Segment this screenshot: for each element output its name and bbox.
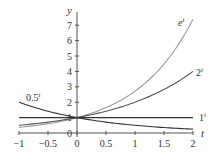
x-tick-label: 1.5	[158, 138, 171, 149]
curve-label: 1t	[199, 111, 207, 123]
curve-label: 0.5t	[26, 91, 42, 103]
x-tick-label: 0.5	[100, 138, 113, 149]
y-tick-label: 5	[67, 51, 72, 62]
y-tick-label: 6	[67, 35, 72, 46]
x-tick-label: 0	[75, 138, 80, 149]
y-tick-label: 0	[67, 128, 72, 139]
curve-label: et	[178, 16, 185, 28]
y-tick-label: 7	[67, 20, 72, 31]
curve-0-5-pow-t	[19, 102, 193, 129]
y-tick-label: 4	[67, 66, 72, 77]
x-tick-label: −1	[14, 138, 25, 149]
curve-label: 2t	[196, 66, 204, 78]
x-tick-label: −0.5	[39, 138, 57, 149]
curve-labels: et2t1t0.5t	[26, 16, 207, 123]
x-tick-label: 2	[191, 138, 196, 149]
x-axis-label: t	[201, 127, 205, 139]
y-tick-label: 3	[67, 81, 72, 92]
curves	[19, 19, 193, 129]
axes: −1−0.500.511.5201234567yt	[14, 4, 205, 149]
x-tick-label: 1	[133, 138, 138, 149]
y-tick-label: 2	[67, 97, 72, 108]
exponential-functions-chart: −1−0.500.511.5201234567yt et2t1t0.5t	[0, 0, 216, 160]
y-axis-label: y	[66, 4, 72, 16]
